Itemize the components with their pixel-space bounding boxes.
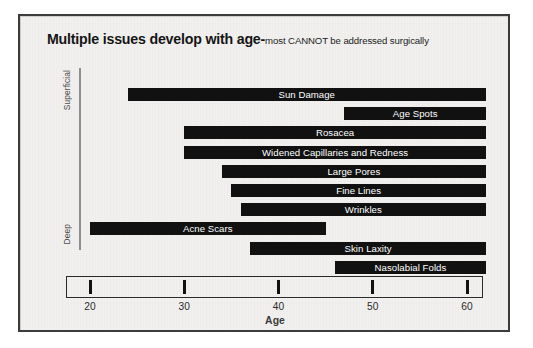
- x-axis-tick-label: 30: [179, 301, 190, 312]
- bar-label: Nasolabial Folds: [335, 261, 486, 274]
- x-axis-box: [66, 276, 483, 298]
- bar: Widened Capillaries and Redness: [184, 146, 486, 159]
- x-axis-tick: [277, 280, 280, 294]
- chart-frame: Multiple issues develop with age-most CA…: [18, 14, 510, 332]
- x-axis-tick: [183, 280, 186, 294]
- bar-series: Sun DamageAge SpotsRosaceaWidened Capill…: [20, 16, 508, 276]
- bar-label: Wrinkles: [241, 203, 486, 216]
- bar: Rosacea: [184, 126, 486, 139]
- bar-row: Wrinkles: [20, 203, 508, 216]
- bar-row: Acne Scars: [20, 222, 508, 235]
- bar: Age Spots: [344, 107, 485, 120]
- bar-row: Large Pores: [20, 165, 508, 178]
- bar: Wrinkles: [241, 203, 486, 216]
- bar-row: Rosacea: [20, 126, 508, 139]
- bar-label: Skin Laxity: [250, 242, 486, 255]
- bar-label: Age Spots: [344, 107, 485, 120]
- bar-label: Sun Damage: [128, 88, 486, 101]
- bar: Large Pores: [222, 165, 486, 178]
- bar-row: Widened Capillaries and Redness: [20, 146, 508, 159]
- bar-row: Sun Damage: [20, 88, 508, 101]
- chart-page: Multiple issues develop with age-most CA…: [0, 0, 533, 348]
- x-axis-tick-label: 20: [84, 301, 95, 312]
- bar-row: Fine Lines: [20, 184, 508, 197]
- bar: Acne Scars: [90, 222, 326, 235]
- bar-label: Widened Capillaries and Redness: [184, 146, 486, 159]
- x-axis-tick-label: 50: [367, 301, 378, 312]
- bar: Fine Lines: [231, 184, 485, 197]
- x-axis-tick: [466, 280, 469, 294]
- bar: Nasolabial Folds: [335, 261, 486, 274]
- bar-label: Large Pores: [222, 165, 486, 178]
- bar-row: Nasolabial Folds: [20, 261, 508, 274]
- bar: Sun Damage: [128, 88, 486, 101]
- x-axis-tick-label: 60: [461, 301, 472, 312]
- bar-row: Age Spots: [20, 107, 508, 120]
- x-axis-tick-label: 40: [273, 301, 284, 312]
- x-axis-tick: [89, 280, 92, 294]
- bar: Skin Laxity: [250, 242, 486, 255]
- bar-row: Skin Laxity: [20, 242, 508, 255]
- plot-area: Superficial Deep Sun DamageAge SpotsRosa…: [20, 16, 508, 330]
- bar-label: Fine Lines: [231, 184, 485, 197]
- x-axis-title: Age: [265, 315, 285, 326]
- x-axis-tick: [371, 280, 374, 294]
- bar-label: Acne Scars: [90, 222, 326, 235]
- bar-label: Rosacea: [184, 126, 486, 139]
